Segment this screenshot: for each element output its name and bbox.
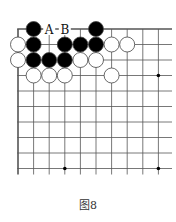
star-point (63, 167, 67, 171)
star-point (157, 167, 161, 171)
black-stone (42, 53, 57, 68)
white-stone (42, 68, 57, 83)
black-stone (57, 53, 72, 68)
white-stone (26, 68, 41, 83)
black-stone (73, 37, 88, 52)
black-stone (89, 22, 104, 37)
black-stone (26, 53, 41, 68)
white-stone (11, 37, 26, 52)
white-stone (104, 68, 119, 83)
black-stone (57, 37, 72, 52)
white-stone (104, 37, 119, 52)
go-board: AB (0, 0, 176, 190)
white-stone (57, 68, 72, 83)
star-point (157, 74, 161, 78)
white-stone (120, 37, 135, 52)
white-stone (89, 53, 104, 68)
black-stone (89, 37, 104, 52)
stones-layer (11, 22, 135, 84)
black-stone (26, 22, 41, 37)
white-stone (73, 53, 88, 68)
white-stone (11, 53, 26, 68)
point-label: B (60, 23, 69, 37)
point-label: A (44, 23, 54, 37)
black-stone (26, 37, 41, 52)
figure-caption: 图8 (0, 196, 176, 212)
